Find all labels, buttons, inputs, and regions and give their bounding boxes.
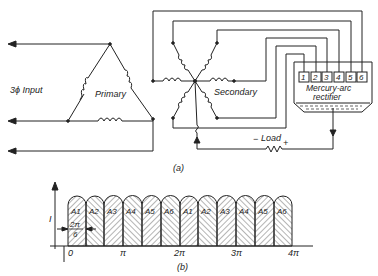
anode-5: 5 xyxy=(348,73,353,82)
pulse-label: A6 xyxy=(163,207,174,216)
load-plus: + xyxy=(283,138,288,148)
pulse-label: A2 xyxy=(200,207,211,216)
load-minus: − xyxy=(253,134,258,144)
pulse-label: A5 xyxy=(144,207,155,216)
load-resistor-icon xyxy=(266,146,282,152)
pulse-label: A2 xyxy=(88,207,99,216)
input-lines xyxy=(8,41,153,154)
pulse-label: A4 xyxy=(238,207,249,216)
anode-4: 4 xyxy=(336,73,341,82)
anode-wires xyxy=(153,11,362,128)
secondary-label: Secondary xyxy=(214,87,258,97)
rectifier-diagram: 3ϕ Input Primary xyxy=(0,0,378,276)
pulse-label: A1 xyxy=(182,207,193,216)
anode-1: 1 xyxy=(301,73,305,82)
x-tick: 2π xyxy=(173,248,186,258)
interval-numerator: 2π xyxy=(69,220,80,229)
pulse-label: A6 xyxy=(276,207,287,216)
anode-2: 2 xyxy=(312,73,318,82)
pulse-label: A5 xyxy=(257,207,268,216)
y-axis-label: I xyxy=(49,214,52,224)
caption-b: (b) xyxy=(177,262,188,272)
x-tick: π xyxy=(120,248,127,258)
anode-6: 6 xyxy=(359,73,364,82)
x-tick: 0 xyxy=(68,248,73,258)
pulse-label: A3 xyxy=(106,207,117,216)
x-tick: 4π xyxy=(288,248,300,258)
pulse-label: A1 xyxy=(70,207,81,216)
pulse-label: A3 xyxy=(219,207,230,216)
anode-boxes xyxy=(299,72,367,82)
input-label: 3ϕ Input xyxy=(10,85,43,95)
interval-denominator: 6 xyxy=(73,230,78,239)
caption-a: (a) xyxy=(173,163,184,173)
waveform-pulses xyxy=(68,196,292,247)
primary-label: Primary xyxy=(95,89,126,99)
load-label: Load xyxy=(261,133,282,143)
anode-3: 3 xyxy=(324,73,329,82)
rectifier-label-2: rectifier xyxy=(313,92,342,102)
primary-delta xyxy=(67,43,155,123)
x-tick-labels: 0 π 2π 3π 4π xyxy=(68,248,300,258)
pulse-label: A4 xyxy=(125,207,136,216)
x-tick: 3π xyxy=(231,248,243,258)
